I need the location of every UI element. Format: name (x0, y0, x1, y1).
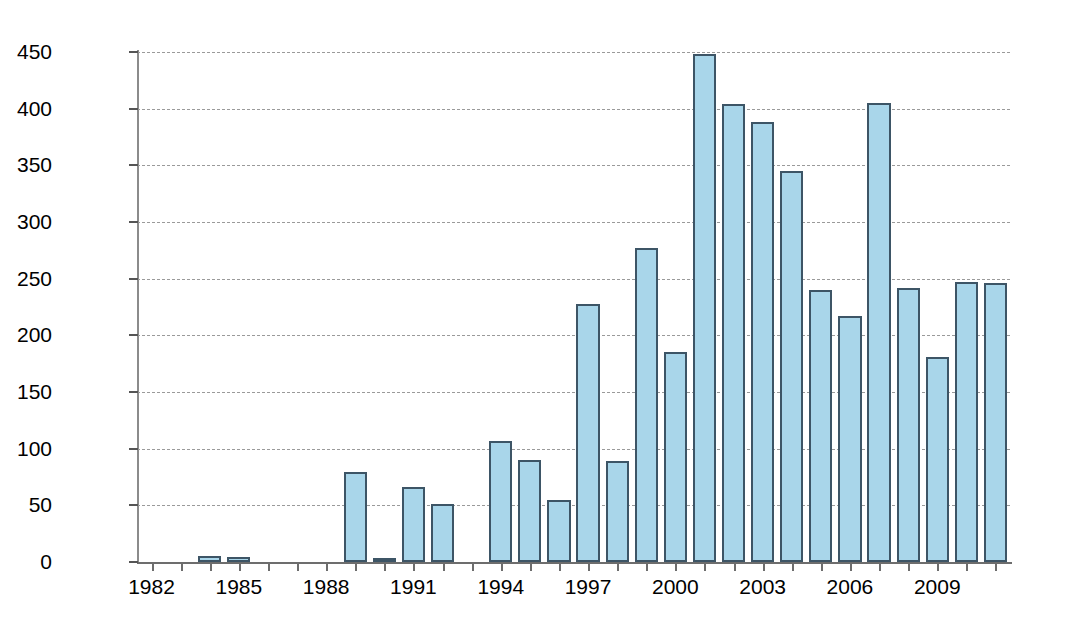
y-axis-tick-label: 200 (0, 323, 52, 347)
x-axis-tick-mark (734, 562, 736, 571)
x-axis-tick-mark (937, 562, 939, 571)
bar (606, 461, 629, 562)
x-axis-tick-mark (559, 562, 561, 571)
y-axis-tick-mark (129, 561, 138, 563)
x-axis-tick-mark (704, 562, 706, 571)
y-axis-tick-label: 300 (0, 210, 52, 234)
bar (431, 504, 454, 562)
x-axis-tick-mark (763, 562, 765, 571)
x-axis-tick-mark (413, 562, 415, 571)
x-axis-tick-mark (501, 562, 503, 571)
x-axis-tick-mark (966, 562, 968, 571)
x-axis-tick-mark (152, 562, 154, 571)
y-axis-tick-mark (129, 448, 138, 450)
bar (489, 441, 512, 562)
y-axis-tick-label: 450 (0, 40, 52, 64)
y-axis-tick-label: 50 (0, 493, 52, 517)
x-axis-tick-mark (879, 562, 881, 571)
bar (722, 104, 745, 562)
bar (984, 283, 1007, 562)
x-axis-tick-mark (443, 562, 445, 571)
x-axis-tick-mark (384, 562, 386, 571)
x-axis-tick-label: 1985 (215, 575, 262, 599)
x-axis-tick-label: 1988 (303, 575, 350, 599)
x-axis-tick-mark (181, 562, 183, 571)
x-axis-tick-label: 2000 (652, 575, 699, 599)
x-axis-tick-mark (646, 562, 648, 571)
bar (664, 352, 687, 562)
x-axis-tick-label: 1991 (390, 575, 437, 599)
y-axis-tick-label: 400 (0, 97, 52, 121)
x-axis-tick-mark (530, 562, 532, 571)
x-axis-tick-label: 1994 (477, 575, 524, 599)
x-axis-tick-mark (297, 562, 299, 571)
x-axis-tick-label: 1982 (128, 575, 175, 599)
y-axis-tick-mark (129, 221, 138, 223)
bar (867, 103, 890, 562)
y-axis-tick-mark (129, 51, 138, 53)
x-axis-tick-mark (995, 562, 997, 571)
x-axis-tick-mark (675, 562, 677, 571)
x-axis-tick-mark (617, 562, 619, 571)
x-axis-tick-label: 1997 (565, 575, 612, 599)
y-axis-tick-label: 150 (0, 380, 52, 404)
bar (780, 171, 803, 562)
bar (576, 304, 599, 562)
bar (344, 472, 367, 562)
bar (635, 248, 658, 562)
y-axis-tick-mark (129, 391, 138, 393)
y-axis-tick-label: 250 (0, 267, 52, 291)
y-axis-tick-mark (129, 278, 138, 280)
x-axis-tick-mark (908, 562, 910, 571)
bar (402, 487, 425, 562)
x-axis-tick-mark (239, 562, 241, 571)
x-axis-tick-label: 2006 (827, 575, 874, 599)
y-axis-tick-mark (129, 334, 138, 336)
y-axis-tick-label: 0 (0, 550, 52, 574)
x-axis-tick-label: 2009 (914, 575, 961, 599)
y-axis-tick-mark (129, 164, 138, 166)
bar (926, 357, 949, 562)
x-axis-tick-mark (326, 562, 328, 571)
gridline (137, 52, 1010, 53)
bar (693, 54, 716, 562)
bar (751, 122, 774, 562)
plot-area (137, 52, 1010, 562)
x-axis-tick-mark (792, 562, 794, 571)
y-axis-tick-label: 100 (0, 437, 52, 461)
x-axis-tick-mark (472, 562, 474, 571)
bar (518, 460, 541, 562)
x-axis-tick-mark (850, 562, 852, 571)
x-axis-tick-mark (588, 562, 590, 571)
y-axis-tick-label: 350 (0, 153, 52, 177)
y-axis-tick-mark (129, 108, 138, 110)
bar (838, 316, 861, 562)
bar-chart-figure: Water Purchases (1,000 acre-feet) 050100… (0, 0, 1070, 630)
bar (897, 288, 920, 562)
bar (809, 290, 832, 562)
x-axis-tick-mark (268, 562, 270, 571)
x-axis-tick-label: 2003 (739, 575, 786, 599)
y-axis-tick-mark (129, 504, 138, 506)
x-axis-tick-mark (355, 562, 357, 571)
bar (547, 500, 570, 562)
x-axis-tick-mark (821, 562, 823, 571)
x-axis-tick-mark (210, 562, 212, 571)
bar (955, 282, 978, 562)
